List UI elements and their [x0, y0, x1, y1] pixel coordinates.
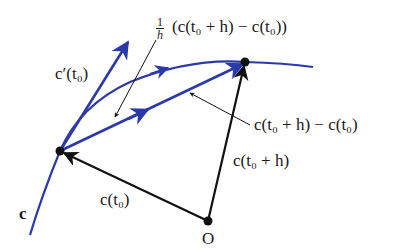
- secant-mid-arrow-icon: [128, 110, 148, 120]
- scaled-secant-label: (c(t₀ + h) − c(t₀)): [172, 18, 287, 35]
- secant-label: c(t₀ + h) − c(t₀): [254, 116, 358, 133]
- position-t0-plus-h-label: c(t₀ + h): [233, 152, 289, 169]
- position-vector-t0-plus-h: [208, 66, 244, 221]
- fraction-denominator: h: [156, 29, 164, 41]
- secant-pointer: [190, 93, 250, 125]
- origin-label: O: [202, 230, 214, 247]
- scaled-secant-fraction: 1 h: [156, 16, 164, 41]
- position-t0-label: c(t₀): [100, 191, 130, 208]
- point-origin: [204, 217, 213, 226]
- position-vector-t0: [64, 153, 208, 221]
- point-c-t0: [56, 147, 65, 156]
- curve-c: [30, 61, 313, 235]
- point-c-t0-plus-h: [241, 58, 250, 67]
- tangent-label: c′(t₀): [55, 65, 88, 82]
- curve-label: c: [19, 205, 27, 222]
